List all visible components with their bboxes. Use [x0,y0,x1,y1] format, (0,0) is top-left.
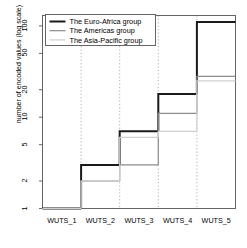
x-tick-label-2: WUTS_2 [81,216,120,225]
series-layer [43,22,236,208]
x-tick-label-5: WUTS_5 [197,216,236,225]
y-tick-label: 20 [19,77,28,101]
y-tick-label: 10 [19,105,28,129]
axis-ticks [39,26,43,209]
legend-label-3: The Asia-Pacific group [70,36,143,45]
legend-label-1: The Euro-Africa group [70,17,142,26]
y-tick-label: 2 [19,169,28,193]
x-tick-label-1: WUTS_1 [43,216,82,225]
chart-figure: number of encoded values (log scale) 125… [0,0,247,248]
x-tick-label-4: WUTS_4 [158,216,197,225]
y-tick-label: 1 [19,196,28,220]
y-tick-label: 5 [19,132,28,156]
y-tick-label: 50 [19,41,28,65]
legend-label-2: The Americas group [70,26,135,35]
x-tick-label-3: WUTS_3 [120,216,159,225]
y-tick-label: 100 [19,13,28,37]
